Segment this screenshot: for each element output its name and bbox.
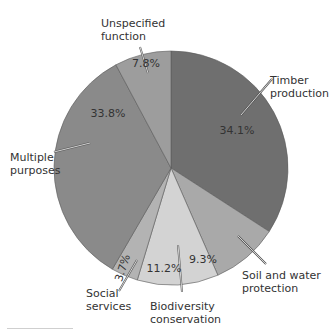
percent-label-biodiversity-conservation: 11.2% bbox=[147, 262, 182, 275]
category-label-timber-production: Timberproduction bbox=[269, 74, 329, 100]
divider bbox=[7, 328, 73, 329]
category-label-soil-and-water-protection: Soil and waterprotection bbox=[242, 269, 321, 295]
category-label-multiple-purposes: Multiplepurposes bbox=[10, 151, 61, 177]
percent-label-timber-production: 34.1% bbox=[220, 124, 255, 137]
category-label-social-services: Socialservices bbox=[86, 287, 131, 313]
category-label-unspecified-function: Unspecifiedfunction bbox=[101, 17, 165, 43]
percent-label-soil-and-water-protection: 9.3% bbox=[189, 253, 217, 266]
pie-chart: 34.1%9.3%11.2%3.7%33.8%7.8% Timberproduc… bbox=[0, 0, 333, 334]
percent-label-multiple-purposes: 33.8% bbox=[91, 107, 126, 120]
percent-label-unspecified-function: 7.8% bbox=[132, 57, 160, 70]
category-label-biodiversity-conservation: Biodiversityconservation bbox=[150, 300, 221, 326]
